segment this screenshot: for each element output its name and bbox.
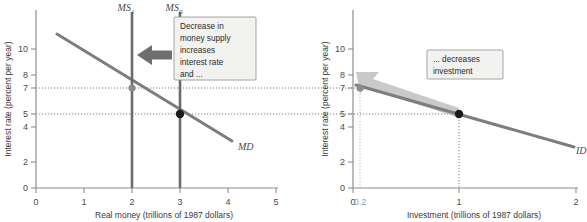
y-axis-title: Interest rate (percent per year) <box>3 41 13 156</box>
id-curve-label: ID <box>575 145 587 156</box>
x-ticklabel-1: 1 <box>456 197 461 207</box>
callout-line-2: money supply <box>180 34 231 43</box>
figure-container: 0 2 4 5 7 8 10 0 1 2 3 4 5 Real money (t… <box>0 0 587 222</box>
y-ticklabel-0: 0 <box>23 183 28 193</box>
point-initial-equilibrium <box>176 110 184 118</box>
y-ticklabel-8: 8 <box>23 70 28 80</box>
x-axis-title: Investment (trillions of 1987 dollars) <box>407 210 541 220</box>
y-ticklabel-2: 2 <box>340 157 345 167</box>
x-ticklabel-2: 2 <box>129 197 134 207</box>
callout-line-2: investment <box>433 67 473 76</box>
x-ticklabel-3: 3 <box>177 197 182 207</box>
y-ticklabel-7: 7 <box>340 83 345 93</box>
y-ticklabel-4: 4 <box>340 122 345 132</box>
y-ticklabel-4: 4 <box>23 122 28 132</box>
x-ticklabel-1: 1 <box>81 197 86 207</box>
callout-money-supply: Decrease in money supply increases inter… <box>174 17 256 80</box>
x-tick-marks <box>36 188 276 193</box>
panel-money-market: 0 2 4 5 7 8 10 0 1 2 3 4 5 Real money (t… <box>0 0 293 222</box>
ms1-label: MS1 <box>117 2 135 16</box>
point-new-equilibrium <box>128 84 135 91</box>
y-ticklabel-10: 10 <box>18 44 28 54</box>
callout-line-5: and ... <box>180 70 203 79</box>
point-initial-investment <box>455 110 463 118</box>
callout-line-1: Decrease in <box>180 22 224 31</box>
y-ticklabel-0: 0 <box>340 183 345 193</box>
y-ticklabel-10: 10 <box>335 44 345 54</box>
x-ticklabel-4: 4 <box>225 197 230 207</box>
x-ticklabel-2: 2 <box>573 197 578 207</box>
panel-investment-demand: 0 2 4 5 7 8 10 0 0.2 1 2 Investment (tri… <box>293 0 587 222</box>
callout-line-4: interest rate <box>180 58 224 67</box>
y-tick-marks <box>348 49 353 188</box>
y-tick-marks <box>31 49 36 188</box>
y-ticklabel-8: 8 <box>340 70 345 80</box>
y-ticklabel-2: 2 <box>23 157 28 167</box>
callout-investment: ... decreases investment <box>427 50 503 79</box>
x-tick-marks <box>353 188 576 193</box>
callout-line-3: increases <box>180 46 215 55</box>
x-ticklabel-0-2: 0.2 <box>354 197 367 207</box>
y-ticklabel-5: 5 <box>23 109 28 119</box>
y-ticklabel-7: 7 <box>23 83 28 93</box>
ms0-label: MS0 <box>165 2 183 16</box>
y-axis-title: Interest rate (percent per year) <box>320 41 330 156</box>
x-ticklabel-0: 0 <box>33 197 38 207</box>
x-axis-title: Real money (trillions of 1987 dollars) <box>95 210 233 220</box>
md-curve-label: MD <box>237 141 254 152</box>
callout-line-1: ... decreases <box>433 55 480 64</box>
x-ticklabel-5: 5 <box>273 197 278 207</box>
y-ticklabel-5: 5 <box>340 109 345 119</box>
id-curve <box>356 85 574 147</box>
leftward-shift-arrow <box>137 45 172 65</box>
point-new-investment <box>356 84 363 91</box>
